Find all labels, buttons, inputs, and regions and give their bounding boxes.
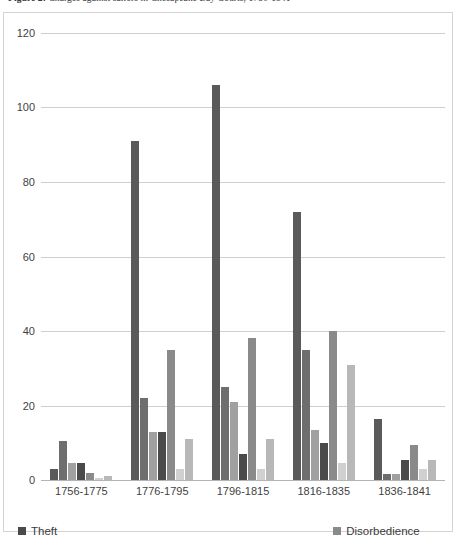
bar-group [203,33,284,480]
bar [428,460,436,480]
chart-screenshot: Figure 2: Charges against sailors in Che… [0,0,456,535]
bar [383,474,391,480]
x-axis-tick-label: 1816-1835 [283,485,364,497]
legend-item-label: Disorbedience [346,525,420,535]
legend-item-label: Theft [31,525,57,535]
bar [131,141,139,480]
bar [338,463,346,480]
bar [176,469,184,480]
legend-swatch-icon [333,527,341,535]
y-axis-tick-label: 40 [23,325,35,337]
chart-frame: 020406080100120 1756-17751776-17951796-1… [3,12,453,532]
x-axis-tick-label: 1836-1841 [364,485,445,497]
bar-group [364,33,445,480]
figure-caption-text: Charges against sailors in Chesapeake Ba… [48,0,290,3]
bar [302,350,310,480]
bar-group [283,33,364,480]
y-axis-tick-label: 100 [17,101,35,113]
bar [230,402,238,480]
legend-item[interactable]: Disorbedience [333,525,420,535]
bar-groups [41,33,445,480]
bar [140,398,148,480]
y-axis-tick-label: 60 [23,251,35,263]
bar [347,365,355,480]
bar [374,419,382,480]
bar [221,387,229,480]
bar [167,350,175,480]
gridline-0: 0 [41,480,445,481]
bar [320,443,328,480]
bar [392,474,400,480]
bar [185,439,193,480]
bar [212,85,220,480]
chart-legend: TheftDisorbedience [18,521,438,535]
y-axis-tick-label: 80 [23,176,35,188]
plot-area: 020406080100120 [41,33,445,480]
bar [410,445,418,480]
bar [77,463,85,480]
y-axis-tick-label: 20 [23,400,35,412]
x-axis: 1756-17751776-17951796-18151816-18351836… [41,485,445,497]
bar [68,463,76,480]
bar [293,212,301,480]
bar [257,469,265,480]
legend-item[interactable]: Theft [18,525,57,535]
bar [149,432,157,480]
legend-swatch-icon [18,527,26,535]
x-axis-tick-label: 1796-1815 [203,485,284,497]
bar [266,439,274,480]
bar [239,454,247,480]
bar [401,460,409,480]
bar [104,476,112,480]
bar [248,338,256,480]
bar [419,469,427,480]
y-axis-tick-label: 120 [17,27,35,39]
bar [329,331,337,480]
bar [86,473,94,480]
bar [311,430,319,480]
bar-group [122,33,203,480]
bar [50,469,58,480]
bar-group [41,33,122,480]
bar [158,432,166,480]
x-axis-tick-label: 1776-1795 [122,485,203,497]
x-axis-tick-label: 1756-1775 [41,485,122,497]
bar [59,441,67,480]
bar [95,478,103,480]
figure-caption-label: Figure 2: [8,0,46,3]
y-axis-tick-label: 0 [29,474,35,486]
figure-caption: Figure 2: Charges against sailors in Che… [8,0,448,3]
